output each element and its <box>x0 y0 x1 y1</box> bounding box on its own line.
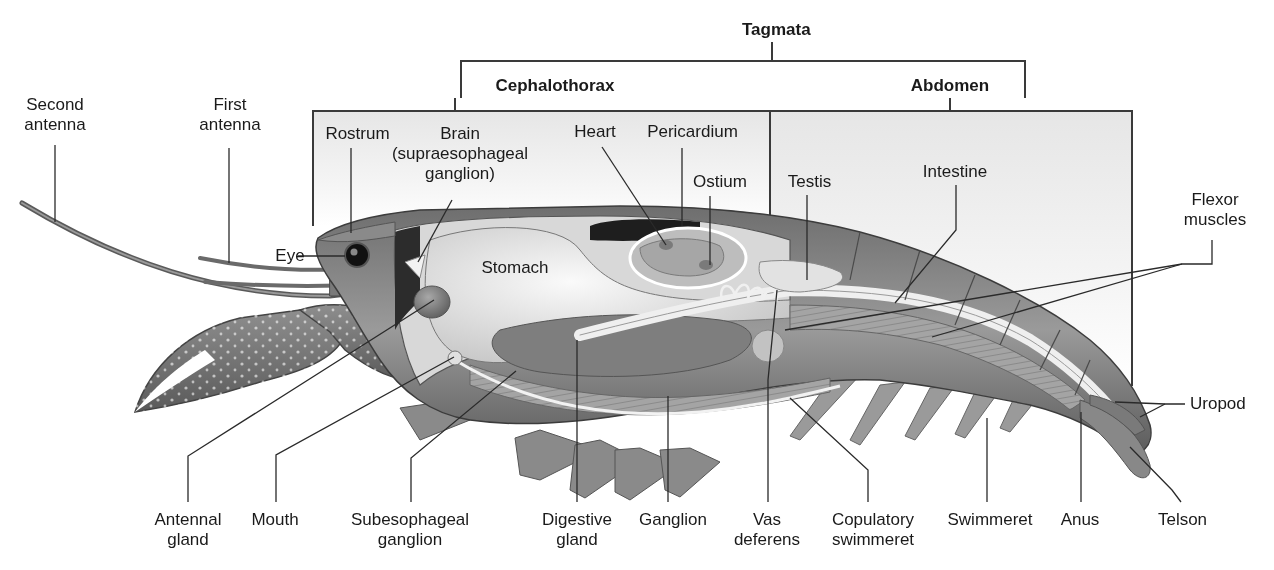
intestine-label: Intestine <box>910 162 1000 182</box>
pericardium-label: Pericardium <box>635 122 750 142</box>
swimmeret-label: Swimmeret <box>935 510 1045 530</box>
heart-label: Heart <box>560 122 630 142</box>
subesophageal-ganglion-label: Subesophageal ganglion <box>330 510 490 550</box>
cephalothorax-label: Cephalothorax <box>470 76 640 96</box>
eye-label: Eye <box>270 246 310 266</box>
uropod-label: Uropod <box>1190 394 1270 414</box>
eye <box>345 243 369 267</box>
anus-label: Anus <box>1050 510 1110 530</box>
digestive-gland-label: Digestive gland <box>522 510 632 550</box>
ganglion-label: Ganglion <box>628 510 718 530</box>
tagmata-label: Tagmata <box>742 20 802 40</box>
flexor-muscles-label: Flexor muscles <box>1175 190 1255 230</box>
testis-label: Testis <box>777 172 842 192</box>
ostium-2 <box>699 260 713 270</box>
telson-label: Telson <box>1145 510 1220 530</box>
second-antenna-label: Second antenna <box>10 95 100 135</box>
antennal-gland-label: Antennal gland <box>138 510 238 550</box>
ostium-label: Ostium <box>685 172 755 192</box>
stomach-label: Stomach <box>470 258 560 278</box>
brain-label: Brain (supraesophageal ganglion) <box>385 124 535 184</box>
abdomen-label: Abdomen <box>900 76 1000 96</box>
vas-deferens-label: Vas deferens <box>722 510 812 550</box>
subesophageal-ganglion-node <box>448 351 462 365</box>
crayfish-anatomy-diagram: Tagmata Cephalothorax Abdomen Second ant… <box>0 0 1274 570</box>
mouth-label: Mouth <box>240 510 310 530</box>
first-antenna-label: First antenna <box>185 95 275 135</box>
copulatory-swimmeret-label: Copulatory swimmeret <box>818 510 928 550</box>
